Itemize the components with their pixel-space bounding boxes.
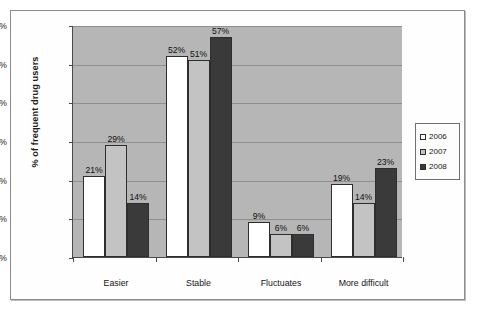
y-axis-tick-mark (69, 219, 73, 220)
x-axis-tick-mark (73, 257, 74, 262)
bar (166, 56, 188, 257)
bar (375, 168, 397, 257)
x-axis-category-label: Easier (104, 278, 129, 288)
bar (105, 145, 127, 257)
bar (292, 234, 314, 257)
legend-item: 2007 (420, 144, 459, 159)
legend-swatch-icon (420, 149, 426, 155)
y-axis-tick-label: 60% (0, 21, 7, 31)
y-axis-tick-mark (69, 26, 73, 27)
bar-value-label: 6% (297, 223, 309, 233)
bar-value-label: 9% (253, 211, 265, 221)
bar-value-label: 14% (355, 192, 372, 202)
bar-value-label: 29% (107, 134, 124, 144)
x-axis-category-label: Stable (186, 278, 211, 288)
bar (331, 184, 353, 257)
x-axis-category-label: More difficult (339, 278, 389, 288)
plot-area: 0%10%20%30%40%50%60%21%29%14%Easier52%51… (72, 26, 402, 258)
chart-legend: 200620072008 (415, 123, 460, 180)
y-axis-tick-mark (69, 103, 73, 104)
y-axis-tick-mark (69, 65, 73, 66)
y-axis-tick-label: 40% (0, 98, 7, 108)
bar-group: 9%6%6% (248, 26, 314, 257)
bar (127, 203, 149, 257)
y-axis-tick-mark (69, 142, 73, 143)
bar-value-label: 23% (377, 157, 394, 167)
y-axis-tick-label: 50% (0, 60, 7, 70)
bar (353, 203, 375, 257)
legend-item-label: 2007 (429, 147, 447, 156)
bar-group: 19%14%23% (331, 26, 397, 257)
x-axis-tick-mark (238, 257, 239, 262)
chart-frame: % of frequent drug users 0%10%20%30%40%5… (10, 10, 465, 300)
legend-item: 2008 (420, 159, 459, 174)
x-axis-category-label: Fluctuates (261, 278, 302, 288)
legend-swatch-icon (420, 164, 426, 170)
y-axis-tick-label: 0% (0, 253, 7, 263)
bar-group: 52%51%57% (166, 26, 232, 257)
legend-item-label: 2006 (429, 132, 447, 141)
bar-value-label: 6% (275, 223, 287, 233)
legend-item-label: 2008 (429, 162, 447, 171)
bar-value-label: 57% (212, 26, 229, 36)
bar (83, 176, 105, 257)
legend-item: 2006 (420, 129, 459, 144)
x-axis-tick-mark (156, 257, 157, 262)
y-axis-tick-mark (69, 181, 73, 182)
bar-value-label: 14% (129, 192, 146, 202)
bar-value-label: 51% (190, 49, 207, 59)
legend-swatch-icon (420, 134, 426, 140)
bar-value-label: 21% (85, 165, 102, 175)
bar-value-label: 52% (168, 45, 185, 55)
bar (248, 222, 270, 257)
y-axis-title: % of frequent drug users (30, 32, 40, 192)
y-axis-tick-label: 20% (0, 176, 7, 186)
y-axis-tick-label: 10% (0, 214, 7, 224)
y-axis-tick-label: 30% (0, 137, 7, 147)
x-axis-tick-mark (321, 257, 322, 262)
bar (270, 234, 292, 257)
x-axis-tick-mark (403, 257, 404, 262)
bar-value-label: 19% (333, 173, 350, 183)
bar (188, 60, 210, 257)
bar-group: 21%29%14% (83, 26, 149, 257)
bar (210, 37, 232, 257)
